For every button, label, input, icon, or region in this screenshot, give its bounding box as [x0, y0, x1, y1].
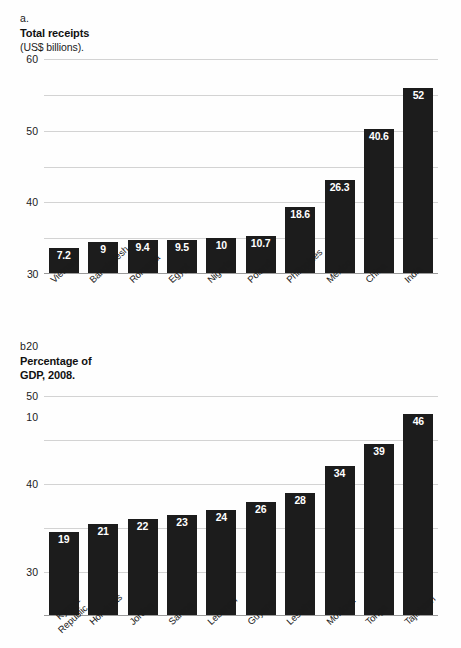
- bar-value-label: 18.6: [290, 207, 310, 220]
- bar-slot: 19: [49, 396, 79, 616]
- bar: 52: [403, 88, 433, 274]
- bar-value-label: 9: [100, 242, 106, 255]
- bar-value-label: 52: [413, 88, 424, 101]
- figure-page: a. Total receipts (US$ billions). 605040…: [0, 0, 461, 648]
- y-axis-tick-label: 30: [27, 268, 38, 280]
- bar-series-a: 7.299.49.51010.718.626.340.652: [44, 59, 438, 274]
- bar-value-label: 26.3: [330, 180, 350, 193]
- bar-value-label: 40.6: [369, 129, 389, 142]
- bar-value-label: 21: [97, 524, 108, 537]
- bar-value-label: 24: [216, 510, 227, 523]
- bar: 23: [167, 515, 197, 616]
- bar-value-label: 26: [255, 502, 266, 515]
- bar-value-label: 10.7: [251, 236, 271, 249]
- y-axis-tick-label: 40: [26, 196, 38, 208]
- panel-b-letter: b.: [20, 340, 29, 352]
- bar-slot: 26: [246, 396, 276, 616]
- bar-value-label: 9.4: [136, 240, 150, 253]
- bar-slot: 34: [325, 396, 355, 616]
- bar-series-b: 19212223242628343946: [44, 396, 438, 616]
- bar: 26.3: [325, 180, 355, 274]
- bar-value-label: 28: [294, 493, 305, 506]
- bar-slot: 40.6: [364, 59, 394, 274]
- bar-slot: 9.4: [128, 59, 158, 274]
- bar-slot: 21: [88, 396, 118, 616]
- bar-slot: 23: [167, 396, 197, 616]
- y-axis-tick-label: 50: [26, 125, 38, 137]
- bar-value-label: 39: [373, 444, 384, 457]
- panel-a-letter: a.: [20, 12, 29, 24]
- panel-a-title: Total receipts: [20, 27, 89, 41]
- bar-slot: 28: [285, 396, 315, 616]
- bar-value-label: 46: [413, 414, 424, 427]
- bar-value-label: 19: [58, 532, 69, 545]
- bar-slot: 10.7: [246, 59, 276, 274]
- y-axis-tick-label: 40: [26, 478, 38, 490]
- bar-value-label: 9.5: [175, 240, 189, 253]
- bar-slot: 7.2: [49, 59, 79, 274]
- bar-value-label: 23: [176, 515, 187, 528]
- bar: 28: [285, 493, 315, 616]
- bar-slot: 26.3: [325, 59, 355, 274]
- bar-slot: 18.6: [285, 59, 315, 274]
- panel-b-title: Percentage of GDP, 2008.: [20, 355, 91, 382]
- y-axis-tick-label: 50: [26, 390, 38, 402]
- bar-slot: 9: [88, 59, 118, 274]
- bar-slot: 22: [128, 396, 158, 616]
- bar: 39: [364, 444, 394, 616]
- bar-slot: 10: [206, 59, 236, 274]
- bar: 34: [325, 466, 355, 616]
- bar-slot: 46: [403, 396, 433, 616]
- bar: 22: [128, 519, 158, 616]
- bar-slot: 9.5: [167, 59, 197, 274]
- y-axis-tick-label: 60: [26, 53, 38, 65]
- chart-panel-b: b. Percentage of GDP, 2008. 5040302010 1…: [0, 330, 461, 648]
- plot-area-b: 5040302010 19212223242628343946: [44, 396, 438, 616]
- bar: 46: [403, 414, 433, 616]
- bar: 40.6: [364, 129, 394, 274]
- bar-slot: 39: [364, 396, 394, 616]
- plot-area-a: 605040302010 7.299.49.51010.718.626.340.…: [44, 59, 438, 274]
- bar-slot: 24: [206, 396, 236, 616]
- bar-value-label: 22: [137, 519, 148, 532]
- bar-value-label: 34: [334, 466, 345, 479]
- bar-value-label: 10: [216, 238, 227, 251]
- chart-panel-a: a. Total receipts (US$ billions). 605040…: [0, 0, 461, 330]
- bar-slot: 52: [403, 59, 433, 274]
- y-axis-tick-label: 30: [26, 566, 38, 578]
